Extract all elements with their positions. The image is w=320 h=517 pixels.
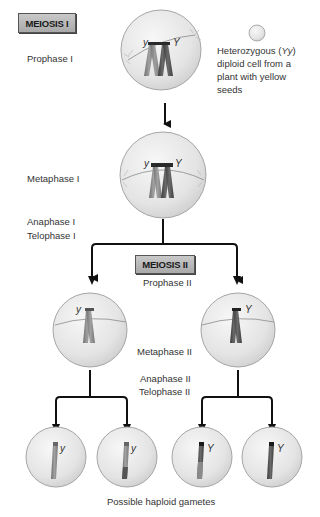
meiosis-1-header-label: MEIOSIS I bbox=[25, 18, 68, 29]
allele-label-prophase-Y: Y bbox=[173, 37, 180, 49]
meiosis-1-header: MEIOSIS I bbox=[18, 13, 76, 33]
gamete-3-allele: Y bbox=[207, 443, 214, 455]
meiosis-2-header-label: MEIOSIS II bbox=[142, 259, 188, 270]
gamete-2-allele: y bbox=[131, 443, 136, 455]
label-prophase-2: Prophase II bbox=[143, 277, 192, 289]
allele-label-metaphase-Y: Y bbox=[175, 158, 182, 170]
gamete-1-allele: y bbox=[60, 443, 65, 455]
gamete-4 bbox=[242, 427, 302, 487]
legend-text: Heterozygous (Yy) diploid cell from a pl… bbox=[217, 44, 296, 96]
allele-label-metaphase2-left: y bbox=[76, 304, 81, 316]
label-metaphase-1: Metaphase I bbox=[27, 173, 79, 185]
gamete-3 bbox=[172, 427, 232, 487]
cell-prophase-1 bbox=[121, 10, 201, 90]
allele-label-metaphase2-right: Y bbox=[245, 304, 252, 316]
legend-line-4: seeds bbox=[217, 83, 296, 96]
legend-line-2: diploid cell from a bbox=[217, 57, 296, 70]
cell-metaphase-2-left bbox=[53, 293, 127, 367]
label-telophase-2: Telophase II bbox=[139, 386, 190, 398]
branch-meiosis-2-right bbox=[202, 370, 272, 426]
allele-label-metaphase-y: y bbox=[144, 158, 149, 170]
gamete-1 bbox=[26, 427, 86, 487]
cell-metaphase-1 bbox=[120, 132, 206, 218]
label-anaphase-1: Anaphase I bbox=[27, 216, 75, 228]
label-metaphase-2: Metaphase II bbox=[137, 346, 192, 358]
branch-meiosis-2-left bbox=[56, 370, 127, 426]
caption-haploid-gametes: Possible haploid gametes bbox=[107, 496, 215, 508]
legend-line-1: Heterozygous (Yy) bbox=[217, 44, 296, 57]
label-prophase-1: Prophase I bbox=[27, 53, 73, 65]
cell-metaphase-2-right bbox=[201, 293, 275, 367]
gamete-2 bbox=[97, 427, 157, 487]
label-telophase-1: Telophase I bbox=[27, 230, 76, 242]
allele-label-prophase-y: y bbox=[143, 37, 148, 49]
label-anaphase-2: Anaphase II bbox=[140, 373, 191, 385]
small-cell-icon bbox=[249, 25, 265, 41]
gamete-4-allele: Y bbox=[277, 443, 284, 455]
meiosis-2-header: MEIOSIS II bbox=[135, 255, 195, 274]
legend-line-3: plant with yellow bbox=[217, 70, 296, 83]
